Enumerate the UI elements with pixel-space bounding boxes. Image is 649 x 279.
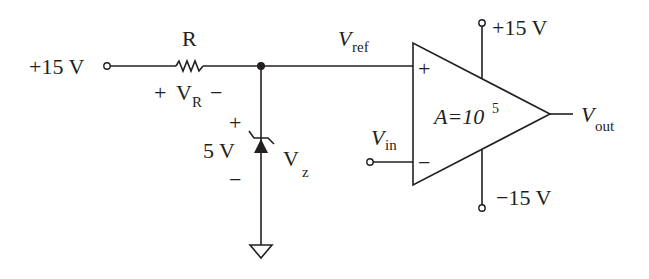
svg-text:out: out [595,118,615,134]
svg-text:z: z [302,164,309,180]
zener-name-label: V z [283,146,309,180]
positive-supply-label: +15 V [492,15,548,40]
svg-text:ref: ref [352,39,369,55]
zener-voltage-label: 5 V [203,138,235,163]
circuit-diagram: +15 V R + V R − V ref + 5 V − V z + − A=… [0,0,649,279]
ground-icon [250,245,272,258]
opamp-minus-input: − [418,150,430,175]
resistor-icon [176,61,203,71]
source-voltage-label: +15 V [29,54,85,79]
vin-terminal [367,159,373,165]
svg-text:R: R [192,94,202,110]
negative-supply-label: −15 V [496,185,552,210]
svg-text:V: V [283,146,299,171]
svg-text:5: 5 [492,101,499,116]
vref-label: V ref [338,26,369,55]
svg-text:V: V [176,80,192,105]
opamp-plus-input: + [418,56,430,81]
vin-label: V in [371,125,397,153]
zener-minus-label: − [229,167,241,192]
source-terminal [104,63,110,69]
svg-text:−: − [210,80,222,105]
negative-supply-terminal [479,205,485,211]
svg-text:in: in [385,137,397,153]
svg-text:+: + [154,80,166,105]
resistor-label: R [182,26,197,51]
zener-plus-label: + [229,110,241,135]
svg-text:A=10: A=10 [432,104,484,129]
vout-label: V out [581,102,615,134]
positive-supply-terminal [479,20,485,26]
resistor-voltage-label: + V R − [154,80,222,110]
